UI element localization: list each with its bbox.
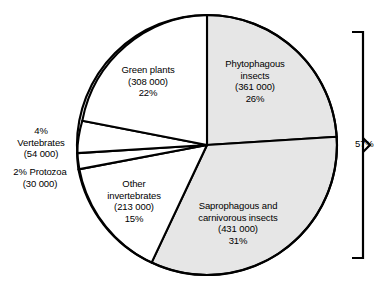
callout-label-protozoa: 2% Protozoa (30 000) <box>0 166 80 189</box>
slice-label-saprophagous-carnivorous-insects: Saprophagous and carnivorous insects (43… <box>171 200 305 246</box>
slice-label-other-invertebrates: Other invertebrates (213 000) 15% <box>82 178 186 224</box>
bracket-label-insect-total: 57% <box>355 138 391 150</box>
pie-chart-figure: Green plants (308 000) 22% Phytophagous … <box>0 0 391 294</box>
slice-label-green-plants: Green plants (308 000) 22% <box>98 64 198 99</box>
callout-label-vertebrates: 4% Vertebrates (54 000) <box>2 125 80 160</box>
slice-label-phytophagous-insects: Phytophagous insects (361 000) 26% <box>203 58 307 104</box>
